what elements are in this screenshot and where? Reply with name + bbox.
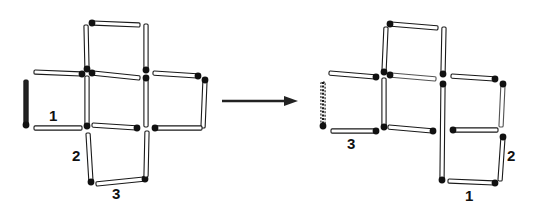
matchstick <box>96 176 149 186</box>
matchstick-body <box>24 80 28 125</box>
matchstick-body <box>84 25 89 69</box>
matchstick <box>381 78 388 130</box>
matchstick <box>451 74 499 82</box>
matchstick-head <box>143 67 150 74</box>
transform-arrow <box>222 96 298 106</box>
matchstick-head <box>440 71 447 78</box>
matchstick-head <box>195 73 202 80</box>
matchstick-body <box>388 125 433 133</box>
matchstick-head <box>89 20 96 27</box>
matchstick-head <box>202 77 209 84</box>
matchstick-body <box>144 78 148 127</box>
matchstick <box>34 126 82 130</box>
matchstick <box>153 71 202 79</box>
matchstick-body <box>153 71 198 78</box>
matchstick <box>388 125 437 134</box>
matchstick-body <box>498 137 505 181</box>
matchstick-head <box>440 81 447 88</box>
matchstick-head <box>373 128 380 135</box>
stick-number-label: 3 <box>347 136 355 151</box>
matchstick-body <box>499 84 505 127</box>
stick-number-label: 1 <box>49 108 57 123</box>
matchstick <box>84 25 91 72</box>
matchstick <box>440 27 447 77</box>
matchstick-head <box>492 180 499 187</box>
matchstick-body <box>448 179 495 185</box>
matchstick-body <box>440 84 445 180</box>
matchstick-body <box>201 80 207 128</box>
matchstick-head <box>23 122 30 129</box>
matchstick-body <box>92 123 137 130</box>
matchstick-body <box>144 24 148 70</box>
matchstick-body <box>85 76 89 126</box>
matchstick <box>320 82 327 129</box>
matchstick-body <box>34 126 82 130</box>
matchstick <box>143 24 150 73</box>
matchstick-body <box>329 71 376 79</box>
matchstick-head <box>373 74 380 81</box>
matchstick-head <box>134 125 141 132</box>
matchstick <box>499 81 506 127</box>
stick-number-label: 3 <box>112 186 120 201</box>
matchstick-head <box>430 128 437 135</box>
matchstick-head <box>450 127 457 134</box>
matchstick <box>34 70 85 77</box>
stick-number-label: 2 <box>507 148 515 163</box>
matchstick-puzzle-diagram: 123321 <box>0 0 537 212</box>
matchstick <box>387 72 437 81</box>
stick-number-label: 2 <box>72 148 80 163</box>
matchstick-body <box>331 129 376 133</box>
matchstick-head <box>320 123 327 130</box>
figure-before <box>23 20 209 186</box>
matchstick-body <box>92 21 140 27</box>
matchstick-body <box>34 70 82 76</box>
matchstick-body <box>382 78 386 127</box>
matchstick-body <box>86 133 93 182</box>
arrow-right-icon <box>284 96 298 106</box>
matchstick <box>387 21 439 30</box>
matchstick-head <box>387 72 394 79</box>
stick-number-label: 1 <box>465 188 473 203</box>
matchstick <box>89 70 141 80</box>
matchstick-head <box>381 69 388 76</box>
matchstick-head <box>492 76 499 83</box>
matchstick <box>86 133 94 186</box>
matchstick <box>498 134 506 182</box>
matchstick-head <box>152 125 159 132</box>
matchstick-body <box>390 22 438 30</box>
matchstick-head <box>381 124 388 131</box>
figure-after <box>320 21 507 187</box>
matchstick-head <box>79 71 86 78</box>
matchstick <box>448 179 498 186</box>
matchstick-head <box>500 81 507 88</box>
matchstick-body <box>390 73 436 81</box>
matchstick-head <box>143 75 150 82</box>
matchstick-body <box>451 74 495 81</box>
puzzle-canvas <box>0 0 537 212</box>
matchstick-body <box>441 27 446 74</box>
matchstick-head <box>84 123 91 130</box>
matchstick <box>152 125 202 132</box>
matchstick <box>143 75 150 127</box>
matchstick <box>144 131 149 177</box>
matchstick <box>331 128 379 135</box>
matchstick-head <box>88 179 95 186</box>
matchstick-head <box>387 21 394 28</box>
matchstick-body <box>453 128 498 132</box>
matchstick <box>84 76 91 129</box>
matchstick-head <box>439 177 446 184</box>
matchstick-body <box>144 131 149 177</box>
matchstick <box>92 123 141 131</box>
matchstick <box>450 127 498 134</box>
matchstick-body <box>155 126 202 130</box>
matchstick <box>381 27 388 75</box>
matchstick <box>329 71 380 80</box>
matchstick-body <box>96 177 145 186</box>
matchstick <box>89 20 140 27</box>
matchstick-head <box>500 134 507 141</box>
matchstick <box>439 81 447 184</box>
matchstick <box>23 80 30 128</box>
matchstick-body <box>382 27 388 72</box>
matchstick-body <box>92 71 140 80</box>
matchstick-head <box>89 70 96 77</box>
